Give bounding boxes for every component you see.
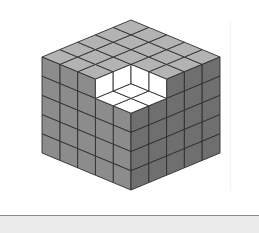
isometric-cube-svg [0, 0, 259, 216]
bottom-bar [0, 216, 259, 233]
cube-figure [0, 0, 259, 216]
scan-artifact-line [230, 20, 231, 190]
